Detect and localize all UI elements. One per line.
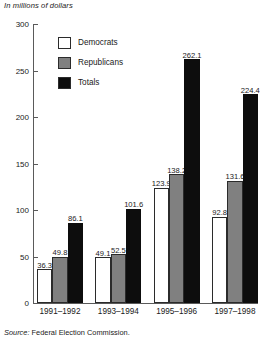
bar-democrats-3: 123.9 xyxy=(154,188,169,303)
y-tick-label-150: 150 xyxy=(16,159,29,168)
bar-value-label: 224.4 xyxy=(241,87,260,95)
x-axis-label-1: 1991–1992 xyxy=(30,307,90,316)
bar-totals-2: 101.6 xyxy=(126,209,141,303)
y-tick-label-250: 250 xyxy=(16,66,29,75)
unit-caption: In millions of dollars xyxy=(4,1,73,10)
bar-value-label: 49.1 xyxy=(96,250,111,258)
legend-item-totals: Totals xyxy=(58,74,150,91)
legend-swatch-democrats xyxy=(58,37,71,49)
legend-swatch-totals xyxy=(58,77,71,89)
bar-totals-1: 86.1 xyxy=(68,223,83,303)
source-note-lead: Source: xyxy=(4,328,29,337)
y-tick-label-0: 0 xyxy=(25,299,29,308)
x-axis-line xyxy=(33,303,258,304)
bar-value-label: 86.1 xyxy=(68,215,83,223)
bar-republicans-3: 138.2 xyxy=(169,174,184,303)
y-tick-label-200: 200 xyxy=(16,113,29,122)
bar-republicans-2: 52.5 xyxy=(111,254,126,303)
legend-label-democrats: Democrats xyxy=(78,38,118,47)
y-tick-label-100: 100 xyxy=(16,206,29,215)
bar-value-label: 101.6 xyxy=(124,201,143,209)
bar-group-3: 123.9138.2262.1 xyxy=(154,24,200,303)
legend-swatch-republicans xyxy=(58,57,71,69)
x-axis-label-2: 1993–1994 xyxy=(88,307,148,316)
bar-democrats-1: 36.3 xyxy=(37,269,52,303)
bar-republicans-1: 49.8 xyxy=(52,257,67,303)
bar-group-4: 92.8131.6224.4 xyxy=(212,24,258,303)
bar-value-label: 92.8 xyxy=(212,209,227,217)
bar-value-label: 138.2 xyxy=(167,167,186,175)
bar-value-label: 36.3 xyxy=(37,262,52,270)
source-note-text: Federal Election Commission. xyxy=(32,328,130,337)
bar-value-label: 123.9 xyxy=(152,180,171,188)
source-note: Source: Federal Election Commission. xyxy=(4,328,130,337)
legend-item-democrats: Democrats xyxy=(58,34,150,51)
y-tick-mark-0 xyxy=(34,303,38,304)
y-tick-label-50: 50 xyxy=(20,252,29,261)
chart-legend: Democrats Republicans Totals xyxy=(58,34,150,94)
legend-label-totals: Totals xyxy=(78,78,99,87)
bar-value-label: 262.1 xyxy=(182,52,201,60)
legend-item-republicans: Republicans xyxy=(58,54,150,71)
legend-label-republicans: Republicans xyxy=(78,58,123,67)
bar-value-label: 49.8 xyxy=(53,249,68,257)
bar-value-label: 131.6 xyxy=(225,173,244,181)
bar-value-label: 52.5 xyxy=(111,247,126,255)
bar-totals-4: 224.4 xyxy=(243,94,258,303)
bar-totals-3: 262.1 xyxy=(184,59,199,303)
x-axis-label-4: 1997–1998 xyxy=(205,307,264,316)
bar-republicans-4: 131.6 xyxy=(227,181,242,303)
y-tick-label-300: 300 xyxy=(16,20,29,29)
x-axis-category-labels: 1991–19921993–19941995–19961997–1998 xyxy=(33,307,258,321)
bar-chart-figure: In millions of dollars 05010015020025030… xyxy=(0,0,264,343)
x-axis-label-3: 1995–1996 xyxy=(147,307,207,316)
bar-democrats-4: 92.8 xyxy=(212,217,227,303)
bar-democrats-2: 49.1 xyxy=(95,257,110,303)
